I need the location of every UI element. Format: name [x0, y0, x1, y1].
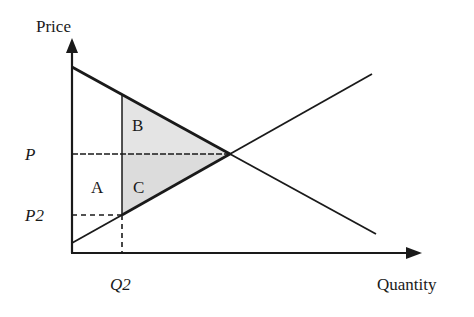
region-b-label: B: [132, 117, 143, 134]
y-axis-label: Price: [36, 18, 71, 35]
x-axis-arrow-icon: [406, 247, 422, 259]
price-p-label: P: [25, 146, 35, 163]
supply-curve-upper: [230, 74, 372, 154]
demand-curve: [230, 154, 376, 234]
x-axis-label: Quantity: [377, 276, 437, 293]
quantity-q2-label: Q2: [110, 276, 131, 293]
y-axis-arrow-icon: [66, 38, 78, 53]
price-p2-label: P2: [25, 207, 44, 224]
region-c-label: C: [133, 179, 144, 196]
supply-curve: [72, 215, 122, 243]
region-a-label: A: [91, 179, 103, 196]
supply-demand-diagram: [0, 0, 474, 317]
